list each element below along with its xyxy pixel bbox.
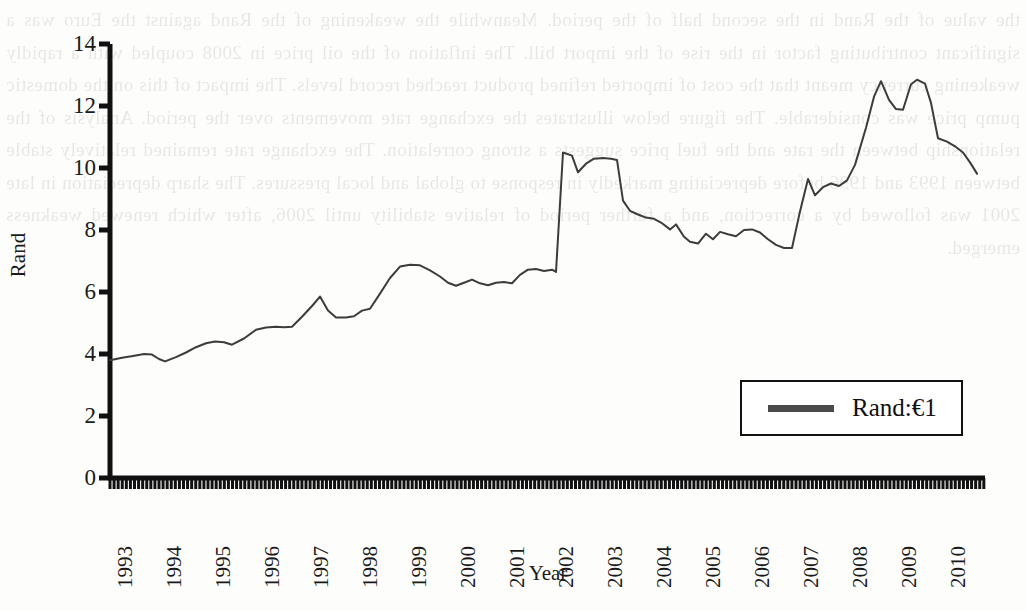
x-axis-tick-label: 2009	[897, 546, 922, 588]
exchange-rate-line-chart: 02468101214 1993199419951996199719981999…	[0, 0, 1026, 611]
y-axis-tick-label: 12	[50, 93, 96, 119]
x-axis-tick-label: 2004	[652, 546, 677, 588]
x-axis-tick-label: 1995	[211, 546, 236, 588]
rand-euro-series-line	[110, 80, 977, 362]
x-axis-title: Year	[529, 561, 568, 586]
x-axis-tick-label: 1994	[162, 546, 187, 588]
x-axis-tick-label: 1997	[309, 546, 334, 588]
y-axis-tick-label: 14	[50, 31, 96, 57]
legend-entry-label: Rand:€1	[852, 394, 937, 422]
x-axis-tick-label: 1999	[407, 546, 432, 588]
legend-line-swatch	[768, 405, 834, 412]
x-axis-tick-label: 2003	[603, 546, 628, 588]
x-axis-tick-label: 1998	[358, 546, 383, 588]
x-axis-tick-label: 1993	[113, 546, 138, 588]
y-axis-tick-label: 2	[50, 403, 96, 429]
figure-page: the value of the Rand in the second half…	[0, 0, 1026, 611]
y-axis-title: Rand	[6, 233, 31, 277]
y-axis-tick-label: 0	[50, 465, 96, 491]
x-axis-tick-label: 2001	[505, 546, 530, 588]
chart-legend: Rand:€1	[740, 380, 963, 436]
x-axis-minor-ticks	[110, 478, 984, 489]
y-axis-tick-label: 4	[50, 341, 96, 367]
x-axis-tick-label: 2010	[946, 546, 971, 588]
x-axis-tick-label: 2005	[701, 546, 726, 588]
x-axis-tick-label: 1996	[260, 546, 285, 588]
y-axis-tick-label: 6	[50, 279, 96, 305]
x-axis-tick-label: 2000	[456, 546, 481, 588]
x-axis-tick-label: 2006	[750, 546, 775, 588]
chart-canvas	[0, 0, 1026, 611]
x-axis-tick-label: 2008	[848, 546, 873, 588]
y-axis-tick-label: 10	[50, 155, 96, 181]
x-axis-tick-label: 2007	[799, 546, 824, 588]
y-axis-tick-label: 8	[50, 217, 96, 243]
